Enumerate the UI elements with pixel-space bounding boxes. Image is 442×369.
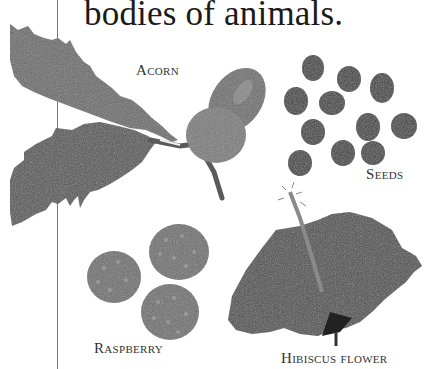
specimen-illustrations [0, 0, 442, 369]
seeds-image [284, 55, 417, 176]
label-seeds: Seeds [366, 166, 403, 183]
raspberry-image [87, 224, 209, 340]
label-hibiscus: Hibiscus flower [281, 350, 387, 367]
label-raspberry: Raspberry [94, 340, 163, 357]
hibiscus-image [228, 212, 422, 336]
label-acorn: Acorn [136, 62, 179, 79]
oak-leaf-lower [10, 122, 156, 226]
acorn-image [186, 57, 278, 163]
